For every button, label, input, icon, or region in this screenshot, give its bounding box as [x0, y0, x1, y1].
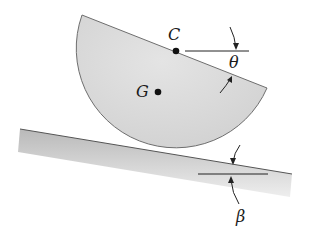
centroid-point-g: [155, 89, 162, 96]
label-theta: θ: [229, 53, 239, 72]
center-point-c: [173, 48, 180, 55]
label-c: C: [168, 25, 180, 44]
arrowhead-icon: [233, 43, 239, 50]
label-g: G: [136, 82, 149, 101]
label-beta: β: [235, 207, 245, 226]
diagram-canvas: C G θ β: [0, 0, 309, 235]
